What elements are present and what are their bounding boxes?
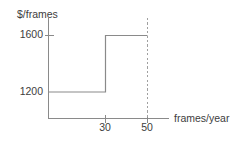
step-function-chart: $/frames 1600 1200 30 50 frames/year xyxy=(0,0,240,143)
y-tick-label-1600: 1600 xyxy=(3,29,43,40)
y-tick-label-1200: 1200 xyxy=(3,86,43,97)
x-tick-label-50: 50 xyxy=(135,122,159,133)
x-axis-label: frames/year xyxy=(174,113,229,124)
step-function-plot-line xyxy=(49,36,148,93)
x-tick-label-30: 30 xyxy=(93,122,117,133)
y-axis-label: $/frames xyxy=(17,9,58,20)
